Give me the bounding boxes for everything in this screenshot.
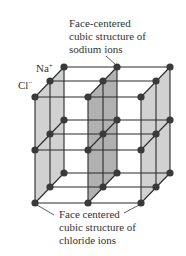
sodium-ion: [152, 77, 159, 84]
chloride-ion: [166, 169, 173, 176]
chloride-ion: [60, 63, 67, 70]
sodium-ion: [84, 199, 91, 206]
chloride-ion: [113, 116, 120, 123]
sodium-ion: [60, 116, 67, 123]
nacl-lattice-diagram: Face-centered cubic structure of sodium …: [0, 0, 186, 256]
chloride-leader-line-right: [124, 205, 139, 213]
chloride-ion: [99, 183, 106, 190]
chloride-ion: [99, 77, 106, 84]
chloride-ion: [46, 130, 53, 137]
chloride-ion: [166, 63, 173, 70]
sodium-ion: [31, 146, 38, 153]
chloride-ion: [60, 169, 67, 176]
sodium-ion: [84, 93, 91, 100]
chloride-ion: [84, 146, 91, 153]
sodium-structure-label: Face-centered cubic structure of sodium …: [69, 17, 149, 55]
sodium-ion: [113, 63, 120, 70]
chloride-ion: [31, 93, 38, 100]
chloride-leader-line-left: [37, 205, 54, 215]
na-ion-label: Na+: [36, 62, 53, 74]
sodium-leader-line: [106, 56, 116, 65]
sodium-ion: [99, 130, 106, 137]
sodium-ion: [137, 146, 144, 153]
cl-ion-label: Cl−: [18, 79, 32, 91]
chloride-structure-label: Face centered cubic structure of chlorid…: [59, 208, 139, 246]
sodium-ion: [152, 183, 159, 190]
sodium-ion: [113, 169, 120, 176]
sodium-ion: [46, 183, 53, 190]
chloride-ion: [137, 93, 144, 100]
sodium-ion: [166, 116, 173, 123]
chloride-ion: [152, 130, 159, 137]
sodium-ion: [46, 77, 53, 84]
